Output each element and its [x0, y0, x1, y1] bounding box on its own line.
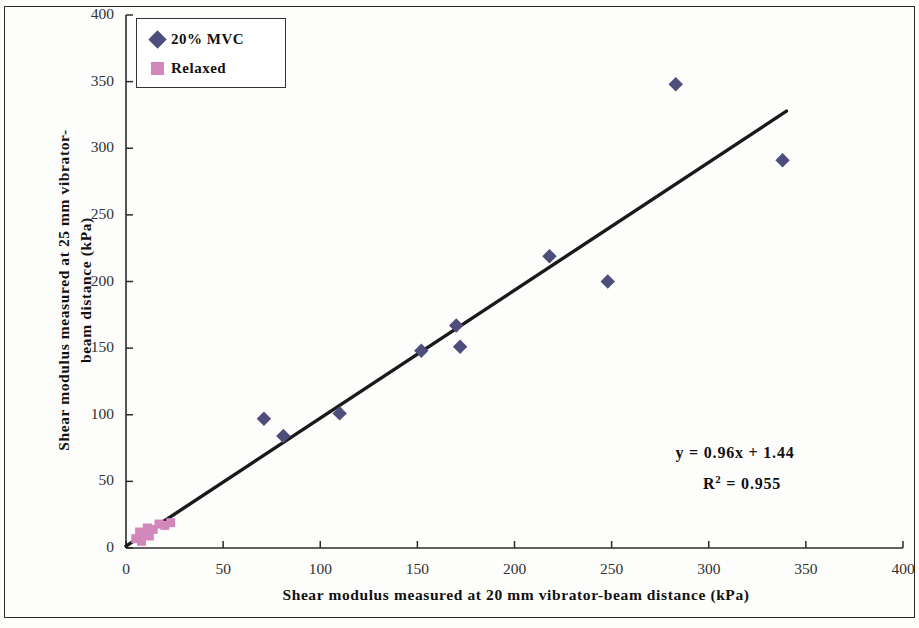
x-tick-label: 0	[96, 560, 156, 578]
regression-equation: y = 0.96x + 1.44	[600, 440, 870, 466]
legend-diamond-marker-icon	[148, 30, 166, 48]
x-axis-title: Shear modulus measured at 20 mm vibrator…	[126, 586, 906, 604]
r-squared-text: R2 = 0.955	[600, 466, 870, 497]
x-tick-label: 400	[873, 560, 919, 578]
x-tick-label: 150	[387, 560, 447, 578]
r-squared-value: = 0.955	[722, 475, 782, 492]
y-axis-title: Shear modulus measured at 25 mm vibrator…	[53, 10, 97, 570]
x-tick-label: 100	[290, 560, 350, 578]
legend-label-relaxed: Relaxed	[171, 60, 226, 77]
x-tick-label: 250	[582, 560, 642, 578]
legend-square-marker-icon	[151, 62, 164, 75]
legend-label-mvc: 20% MVC	[171, 31, 244, 48]
legend-item-mvc: 20% MVC	[151, 25, 285, 54]
x-tick-label: 350	[776, 560, 836, 578]
legend: 20% MVC Relaxed	[136, 18, 286, 88]
chart-figure: 050100150200250300350400 050100150200250…	[0, 0, 919, 628]
regression-annotation: y = 0.96x + 1.44 R2 = 0.955	[600, 440, 870, 497]
y-axis-title-line2: beam distance (kPa)	[77, 217, 94, 363]
x-tick-label: 50	[193, 560, 253, 578]
legend-item-relaxed: Relaxed	[151, 54, 285, 83]
x-tick-label: 200	[485, 560, 545, 578]
r-squared-prefix: R	[703, 475, 715, 492]
scatter-plot-canvas	[0, 0, 919, 628]
y-axis-title-line1: Shear modulus measured at 25 mm vibrator…	[55, 129, 72, 450]
x-tick-label: 300	[679, 560, 739, 578]
